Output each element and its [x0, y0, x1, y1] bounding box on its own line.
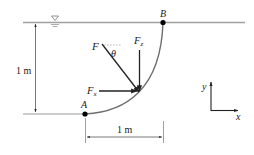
vertical-dimension-label: 1 m [16, 65, 32, 76]
angle-label: θ [111, 48, 116, 59]
point-a-label: A [80, 99, 88, 110]
point-b-label: B [160, 8, 166, 19]
free-surface-icon [51, 16, 59, 27]
vertical-force-label: Fz [133, 35, 143, 48]
point-a [82, 111, 87, 116]
gate-diagram: 1 m 1 m A B F θ Fz Fx y x [0, 0, 254, 155]
y-axis-label: y [201, 81, 207, 92]
curved-gate-surface [85, 22, 163, 114]
resultant-force-label: F [91, 40, 99, 52]
point-b [160, 20, 165, 25]
horizontal-dimension-label: 1 m [117, 124, 133, 135]
horizontal-force-label: Fx [86, 85, 97, 98]
x-axis-label: x [235, 111, 241, 122]
resultant-force-arrow [102, 44, 139, 92]
